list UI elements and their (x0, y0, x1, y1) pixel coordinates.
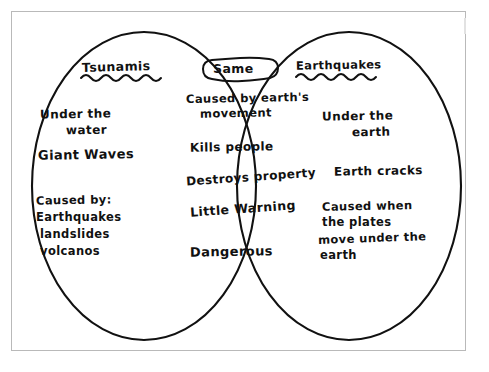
center-item-kills-people: Kills people (190, 140, 274, 155)
left-item-under-the: Under the (40, 107, 111, 122)
venn-diagram-svg (0, 0, 489, 372)
right-heading-earthquakes: Earthquakes (296, 58, 382, 72)
tsunamis-underline-wave (81, 75, 161, 81)
right-item-earth-cracks: Earth cracks (334, 164, 423, 179)
right-item-the-plates: the plates (322, 216, 392, 229)
left-item-water: water (66, 124, 107, 138)
earthquakes-underline-wave (296, 74, 376, 80)
center-item-dangerous: Dangerous (190, 244, 273, 260)
right-item-under-the: Under the (322, 109, 393, 124)
center-item-movement: movement (200, 106, 272, 120)
right-item-earth-2: earth (320, 249, 357, 262)
left-item-volcanos: volcanos (40, 245, 100, 258)
left-item-landslides: landslides (40, 228, 110, 241)
worksheet-page: Tsunamis Under the water Giant Waves Cau… (0, 0, 489, 372)
right-item-earth: earth (352, 126, 391, 140)
left-item-earthquakes: Earthquakes (36, 211, 122, 224)
center-item-caused-by-earths: Caused by earth's (186, 91, 309, 106)
left-item-caused-by: Caused by: (36, 193, 112, 207)
right-item-caused-when: Caused when (322, 199, 413, 213)
center-heading-same: Same (213, 62, 254, 76)
left-heading-tsunamis: Tsunamis (82, 59, 151, 75)
left-item-giant-waves: Giant Waves (38, 147, 134, 163)
